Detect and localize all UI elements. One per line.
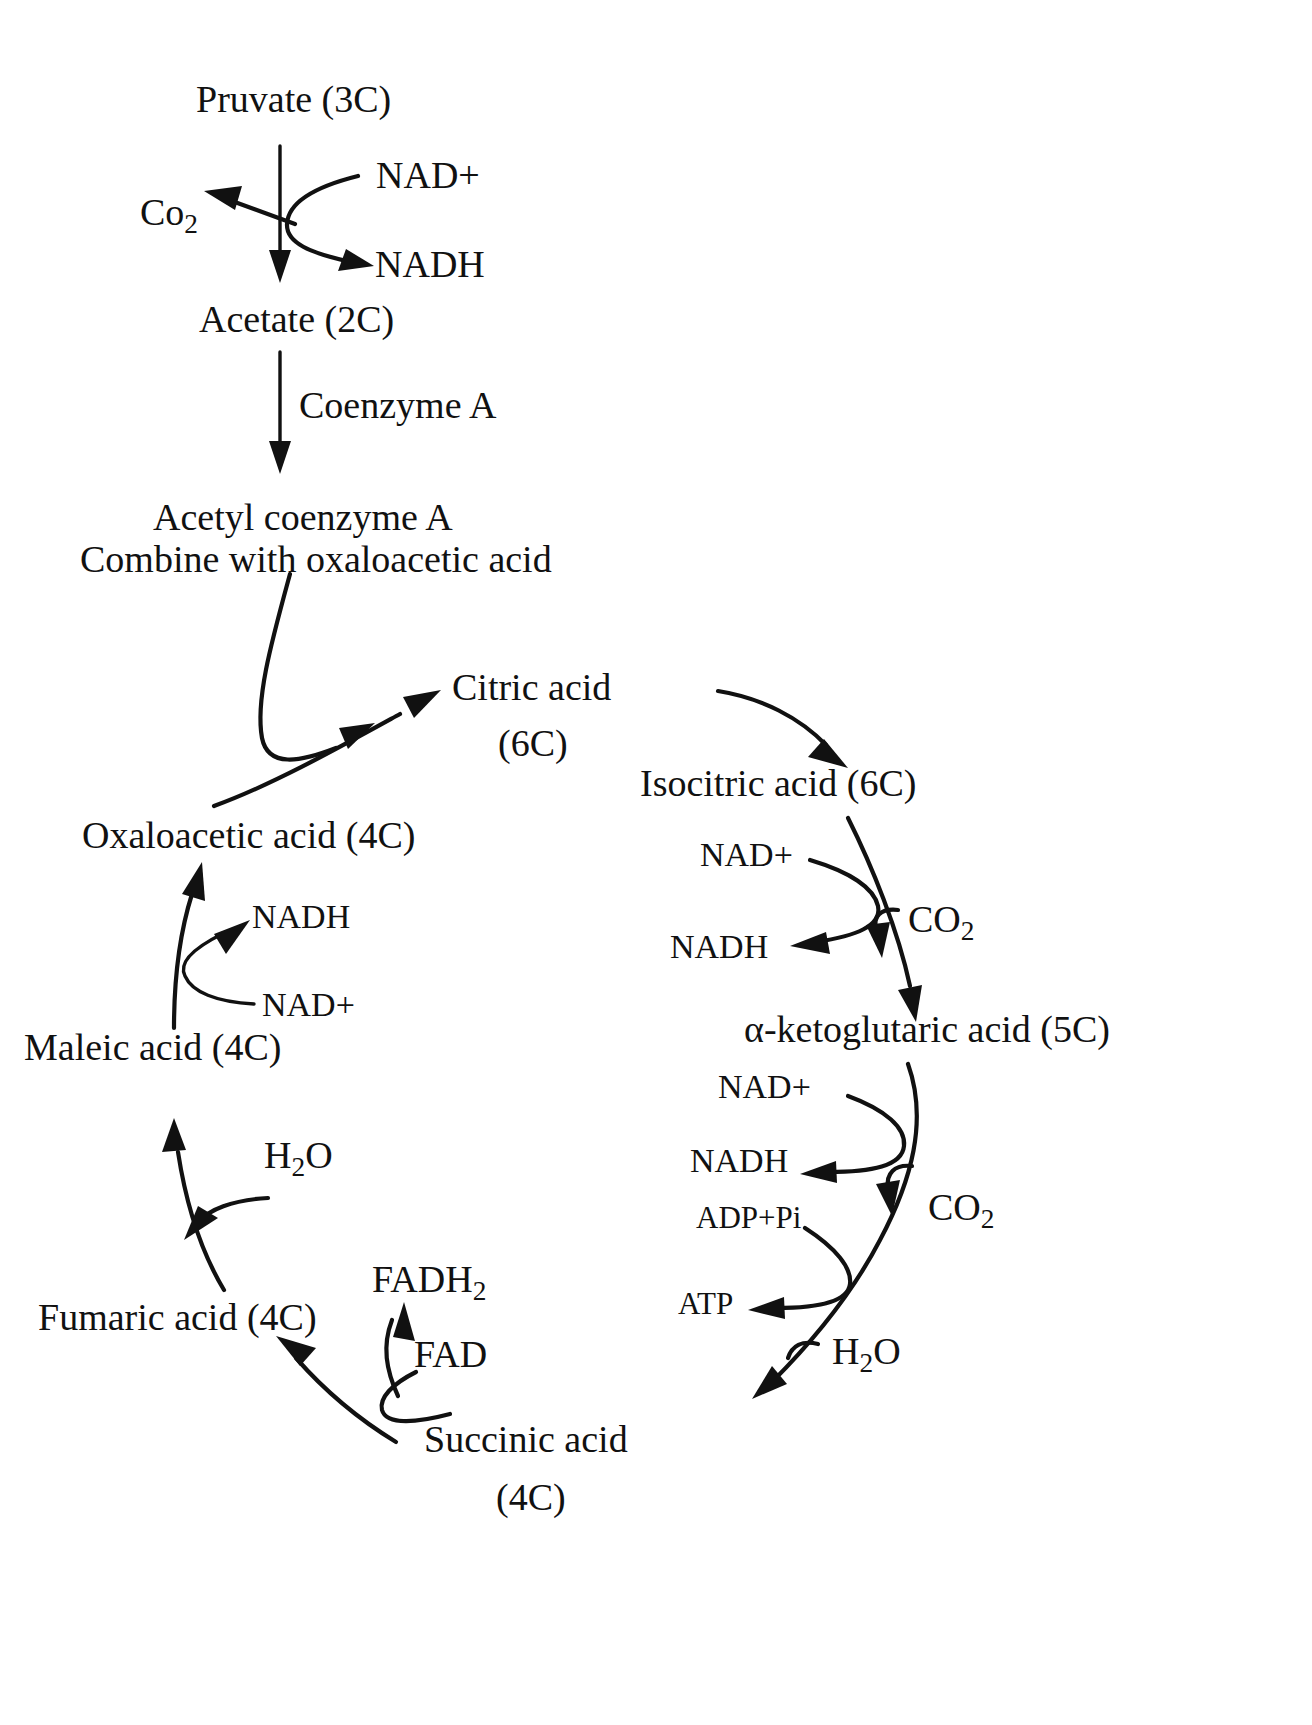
- coenzyme-a-label: Coenzyme A: [299, 384, 497, 426]
- h2o-fumaric-subscript: 2: [291, 1152, 305, 1182]
- succinic-acid-label-line1: Succinic acid: [424, 1418, 628, 1460]
- nadplus-to-nadh-curve-isocitric: [790, 860, 878, 954]
- co2-ketoglutaric-label: CO2: [928, 1186, 994, 1234]
- co2-release-arrow-isocitric: [866, 910, 898, 958]
- adp-pi-label: ADP+Pi: [696, 1200, 802, 1235]
- h2o-fumaric-o: O: [305, 1134, 332, 1176]
- h2o-succinic-label: H2O: [832, 1330, 901, 1378]
- acetyl-coa-label-line1: Acetyl coenzyme A: [153, 496, 453, 538]
- fumaric-to-maleic-arc: [162, 1118, 224, 1290]
- fadh2-label: FADH2: [372, 1258, 486, 1306]
- nadh-isocitric-label: NADH: [670, 928, 768, 965]
- fadh2-subscript: 2: [473, 1276, 487, 1306]
- pyruvate-label: Pruvate (3C): [196, 78, 391, 121]
- oxaloacetic-acid-label: Oxaloacetic acid (4C): [82, 814, 415, 857]
- nadplus-pyruvate-label: NAD+: [376, 154, 480, 196]
- citric-to-isocitric-arrow: [718, 691, 848, 768]
- co2-isocitric-subscript: 2: [961, 916, 975, 946]
- h2o-fumaric-h: H: [264, 1134, 291, 1176]
- co2-pyruvate-subscript: 2: [184, 209, 198, 239]
- nadh-ketoglutaric-label: NADH: [690, 1142, 788, 1179]
- citric-acid-label-line1: Citric acid: [452, 666, 611, 708]
- nadh-maleic-label: NADH: [252, 898, 350, 935]
- krebs-cycle-canvas: Pruvate (3C) NAD+ Co2 NADH Acetate (2C) …: [0, 0, 1312, 1725]
- krebs-cycle-diagram: Pruvate (3C) NAD+ Co2 NADH Acetate (2C) …: [0, 0, 1312, 1725]
- h2o-succinic-o: O: [873, 1330, 900, 1372]
- fadh2-main: FADH: [372, 1258, 473, 1300]
- succinic-acid-label-line2: (4C): [496, 1476, 566, 1519]
- co2-isocitric-main: CO: [908, 898, 961, 940]
- co2-pyruvate-label: Co2: [140, 191, 198, 239]
- fad-label: FAD: [414, 1333, 487, 1375]
- maleic-acid-label: Maleic acid (4C): [24, 1026, 281, 1069]
- adppi-to-atp-curve: [748, 1228, 850, 1319]
- succinic-to-fumaric-arrow: [276, 1336, 396, 1442]
- h2o-fumaric-label: H2O: [264, 1134, 333, 1182]
- nadplus-ketoglutaric-label: NAD+: [718, 1068, 811, 1105]
- co2-ketoglutaric-main: CO: [928, 1186, 981, 1228]
- nadplus-maleic-label: NAD+: [262, 986, 355, 1023]
- h2o-succinic-subscript: 2: [859, 1348, 873, 1378]
- nadh-pyruvate-label: NADH: [375, 243, 485, 285]
- alpha-ketoglutaric-label: α-ketoglutaric acid (5C): [744, 1008, 1110, 1051]
- nadplus-to-nadh-curve-pyruvate: [287, 176, 374, 271]
- isocitric-acid-label: Isocitric acid (6C): [640, 762, 916, 805]
- citric-acid-label-line2: (6C): [498, 722, 568, 765]
- acetate-to-acetylcoa-arrow: [269, 352, 291, 474]
- co2-ketoglutaric-subscript: 2: [981, 1204, 995, 1234]
- co2-isocitric-label: CO2: [908, 898, 974, 946]
- acetyl-coa-label-line2: Combine with oxaloacetic acid: [80, 538, 552, 580]
- acetate-label: Acetate (2C): [199, 298, 394, 341]
- acetylcoa-into-cycle-curve: [260, 574, 336, 760]
- nadplus-isocitric-label: NAD+: [700, 836, 793, 873]
- co2-pyruvate-main: Co: [140, 191, 184, 233]
- fumaric-acid-label: Fumaric acid (4C): [38, 1296, 317, 1339]
- h2o-succinic-h: H: [832, 1330, 859, 1372]
- svg-text:Co2: Co2: [140, 191, 198, 239]
- nadplus-to-nadh-curve-maleic: [183, 920, 254, 1004]
- atp-label: ATP: [678, 1286, 733, 1321]
- nadplus-to-nadh-curve-ketoglutaric: [800, 1096, 904, 1183]
- oxaloacetic-to-citric-arrow: [214, 690, 441, 806]
